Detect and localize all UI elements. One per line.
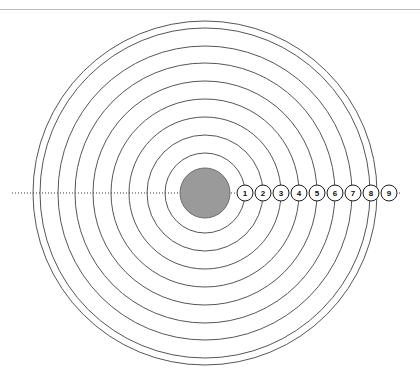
ring-marker-label-1: 1 <box>243 189 248 198</box>
target-diagram-page: 123456789 <box>0 0 420 378</box>
ring-marker-4: 4 <box>291 185 307 201</box>
ring-marker-label-5: 5 <box>315 189 320 198</box>
ring-marker-label-4: 4 <box>297 189 302 198</box>
ring-marker-9: 9 <box>381 185 397 201</box>
ring-target-figure: 123456789 <box>0 0 420 378</box>
ring-marker-8: 8 <box>363 185 379 201</box>
ring-marker-1: 1 <box>237 185 253 201</box>
ring-marker-7: 7 <box>345 185 361 201</box>
marker-group: 123456789 <box>237 185 397 201</box>
ring-marker-6: 6 <box>327 185 343 201</box>
bullseye-center <box>180 168 230 218</box>
ring-marker-label-7: 7 <box>351 189 356 198</box>
ring-marker-label-2: 2 <box>261 189 266 198</box>
ring-marker-label-8: 8 <box>369 189 374 198</box>
ring-marker-label-9: 9 <box>387 189 392 198</box>
ring-marker-3: 3 <box>273 185 289 201</box>
ring-marker-2: 2 <box>255 185 271 201</box>
ring-marker-label-3: 3 <box>279 189 284 198</box>
ring-marker-label-6: 6 <box>333 189 338 198</box>
ring-marker-5: 5 <box>309 185 325 201</box>
